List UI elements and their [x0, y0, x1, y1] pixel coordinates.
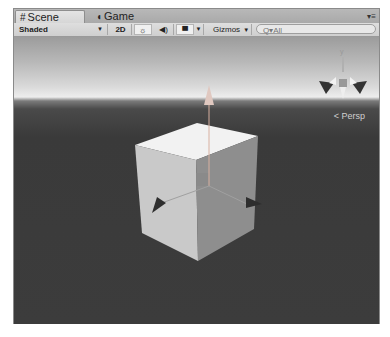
audio-toggle-button[interactable]: ◀)	[154, 24, 174, 35]
lighting-toggle-button[interactable]: ☼	[134, 24, 152, 35]
gizmos-dropdown[interactable]: Gizmos▼	[210, 24, 252, 35]
scene-grid-icon: #	[20, 12, 26, 23]
search-placeholder: Q▾All	[263, 26, 282, 35]
chevron-down-icon: ▼	[97, 24, 103, 35]
2d-mode-button[interactable]: 2D	[110, 24, 132, 35]
move-gizmo-y-arrow-icon[interactable]	[204, 85, 214, 105]
gizmos-label: Gizmos	[213, 25, 240, 34]
chevron-down-icon: ▼	[196, 26, 202, 32]
scene-toolbar: Shaded ▼ 2D ☼ ◀) ▀ ▼ Gizmos▼ Q▾All	[14, 23, 379, 37]
orientation-gizmo[interactable]: y	[319, 48, 367, 99]
move-gizmo-plane-handle[interactable]	[196, 173, 209, 186]
tab-game-label: Game	[104, 10, 134, 22]
scene-viewport[interactable]: y < Persp	[14, 37, 379, 324]
cube-left-face	[135, 145, 198, 261]
search-input[interactable]: Q▾All	[256, 24, 376, 34]
tab-bar: #Scene ◖Game ▾≡	[14, 9, 379, 23]
shading-mode-dropdown[interactable]: Shaded ▼	[16, 24, 108, 35]
tab-scene-label: Scene	[28, 11, 59, 23]
projection-label: Persp	[341, 111, 365, 121]
scene-window: #Scene ◖Game ▾≡ Shaded ▼ 2D ☼ ◀) ▀ ▼ Giz…	[13, 8, 380, 324]
speaker-icon: ◀)	[159, 25, 168, 34]
scene-render: y	[14, 37, 379, 324]
projection-toggle[interactable]: < Persp	[334, 111, 365, 121]
svg-text:y: y	[340, 48, 344, 56]
tab-scene[interactable]: #Scene	[15, 10, 85, 23]
sun-icon: ☼	[139, 26, 146, 35]
shading-mode-label: Shaded	[19, 25, 48, 34]
image-icon: ▀	[182, 26, 188, 35]
game-pacman-icon: ◖	[96, 11, 102, 22]
effects-toggle-button[interactable]: ▀	[176, 24, 194, 35]
chevron-down-icon: ▼	[243, 27, 249, 33]
effects-dropdown-button[interactable]: ▼	[194, 24, 204, 35]
tab-menu-icon[interactable]: ▾≡	[367, 12, 376, 21]
tab-game[interactable]: ◖Game	[92, 10, 162, 23]
